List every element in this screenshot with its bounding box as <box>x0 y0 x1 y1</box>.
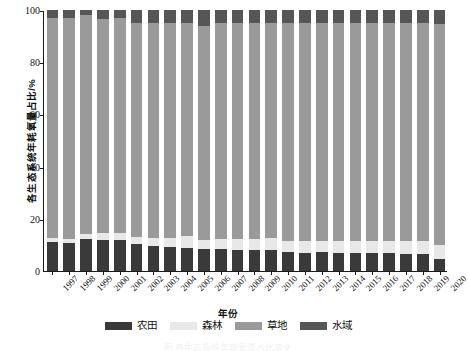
bar-segment-水域 <box>131 10 143 23</box>
y-tick-label-100: 100 <box>14 6 40 16</box>
bar-2004 <box>164 10 176 271</box>
x-tick-label-1999: 1999 <box>95 274 114 293</box>
bar-2018 <box>400 10 412 271</box>
chart-legend: 农田森林草地水域 <box>0 320 456 331</box>
y-tick-mark <box>40 63 44 64</box>
bar-segment-水域 <box>400 10 412 23</box>
bar-segment-农田 <box>333 253 345 271</box>
bar-segment-草地 <box>417 23 429 241</box>
bar-segment-森林 <box>417 241 429 254</box>
bar-segment-森林 <box>333 241 345 253</box>
legend-swatch-icon <box>300 322 327 330</box>
x-tick-label-2004: 2004 <box>180 274 199 293</box>
bar-segment-农田 <box>400 254 412 271</box>
legend-item-农田[interactable]: 农田 <box>105 320 157 331</box>
bar-segment-草地 <box>80 15 92 234</box>
bar-segment-草地 <box>366 23 378 241</box>
bar-segment-森林 <box>148 238 160 246</box>
bar-segment-农田 <box>47 242 59 271</box>
bar-2014 <box>333 10 345 271</box>
bar-segment-水域 <box>232 10 244 23</box>
bar-segment-森林 <box>232 239 244 249</box>
bar-2010 <box>265 10 277 271</box>
bar-segment-水域 <box>47 10 59 18</box>
bar-segment-农田 <box>366 253 378 271</box>
bar-segment-森林 <box>383 241 395 254</box>
x-tick-label-2016: 2016 <box>382 274 401 293</box>
legend-label: 农田 <box>137 320 157 331</box>
y-tick-mark <box>40 168 44 169</box>
bar-1999 <box>80 10 92 271</box>
bar-segment-农田 <box>232 250 244 271</box>
bar-segment-草地 <box>148 23 160 238</box>
legend-swatch-icon <box>170 322 197 330</box>
bar-segment-水域 <box>282 10 294 23</box>
bar-segment-农田 <box>249 250 261 271</box>
x-tick-label-2020: 2020 <box>449 274 468 293</box>
x-tick-label-2000: 2000 <box>112 274 131 293</box>
bar-segment-森林 <box>198 240 210 249</box>
bar-2017 <box>383 10 395 271</box>
x-tick-label-2007: 2007 <box>230 274 249 293</box>
bar-segment-水域 <box>198 10 210 26</box>
bar-2006 <box>198 10 210 271</box>
bar-segment-森林 <box>400 241 412 254</box>
bar-segment-水域 <box>383 10 395 23</box>
bar-segment-水域 <box>434 10 446 24</box>
legend-label: 草地 <box>267 320 287 331</box>
bar-segment-水域 <box>114 10 126 18</box>
y-axis-tick-labels: 020406080100 <box>14 0 40 351</box>
x-tick-label-1998: 1998 <box>79 274 98 293</box>
x-tick-label-2006: 2006 <box>213 274 232 293</box>
bar-segment-草地 <box>434 24 446 245</box>
bar-segment-农田 <box>181 248 193 271</box>
x-tick-label-2001: 2001 <box>129 274 148 293</box>
bar-segment-农田 <box>215 249 227 271</box>
bar-segment-水域 <box>366 10 378 23</box>
bar-segment-草地 <box>232 23 244 239</box>
bar-segment-水域 <box>299 10 311 23</box>
x-tick-label-2003: 2003 <box>163 274 182 293</box>
x-tick-label-2019: 2019 <box>432 274 451 293</box>
bar-segment-农田 <box>383 253 395 271</box>
bar-segment-农田 <box>282 252 294 271</box>
bar-segment-草地 <box>333 23 345 241</box>
bar-segment-草地 <box>198 26 210 240</box>
bar-segment-草地 <box>316 23 328 241</box>
bar-2001 <box>114 10 126 271</box>
bar-segment-农田 <box>350 253 362 271</box>
bar-segment-森林 <box>215 239 227 249</box>
bar-segment-水域 <box>63 10 75 18</box>
legend-swatch-icon <box>105 322 132 330</box>
bar-segment-农田 <box>97 240 109 271</box>
bar-2019 <box>417 10 429 271</box>
y-tick-label-0: 0 <box>14 267 40 277</box>
bar-segment-森林 <box>265 238 277 249</box>
bar-2007 <box>215 10 227 271</box>
bar-segment-农田 <box>114 240 126 271</box>
bar-2005 <box>181 10 193 271</box>
y-tick-label-40: 40 <box>14 163 40 173</box>
bar-segment-农田 <box>164 247 176 271</box>
bar-segment-农田 <box>131 244 143 271</box>
bar-segment-草地 <box>350 23 362 241</box>
y-tick-label-60: 60 <box>14 110 40 120</box>
bar-segment-农田 <box>198 249 210 271</box>
bar-segment-水域 <box>97 10 109 19</box>
bar-segment-水域 <box>350 10 362 23</box>
legend-item-森林[interactable]: 森林 <box>170 320 222 331</box>
legend-item-草地[interactable]: 草地 <box>235 320 287 331</box>
bar-2016 <box>366 10 378 271</box>
y-tick-label-80: 80 <box>14 58 40 68</box>
bar-segment-森林 <box>366 241 378 253</box>
bar-segment-草地 <box>282 23 294 241</box>
x-tick-label-2018: 2018 <box>415 274 434 293</box>
bar-segment-水域 <box>249 10 261 23</box>
x-tick-label-2017: 2017 <box>398 274 417 293</box>
bar-segment-草地 <box>400 23 412 241</box>
legend-item-水域[interactable]: 水域 <box>300 320 352 331</box>
bar-2012 <box>299 10 311 271</box>
x-axis-title: 年份 <box>0 306 456 320</box>
x-tick-label-2012: 2012 <box>314 274 333 293</box>
bar-segment-草地 <box>181 23 193 236</box>
